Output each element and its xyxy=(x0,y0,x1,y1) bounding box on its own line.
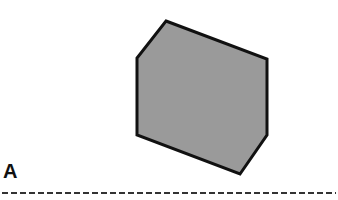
hexagon-shape xyxy=(137,21,267,174)
diagram-canvas xyxy=(0,0,338,200)
line-label-a: A xyxy=(3,161,17,181)
